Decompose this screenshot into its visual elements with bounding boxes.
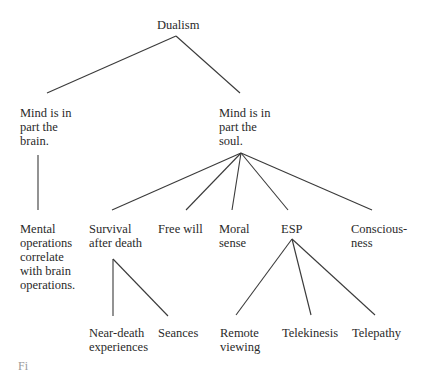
node-remote-viewing: Remote viewing: [220, 326, 260, 354]
node-mind-brain: Mind is in part the brain.: [20, 106, 71, 148]
edge-esp-to-telepathy: [292, 239, 375, 315]
node-dualism: Dualism: [157, 18, 199, 32]
edge-survival-to-seances: [113, 259, 168, 316]
node-telekinesis: Telekinesis: [282, 326, 338, 340]
edge-soul-to-consciousness: [241, 153, 372, 210]
dualism-tree-diagram: Dualism Mind is in part the brain. Mind …: [0, 0, 422, 372]
edge-soul-to-esp: [241, 153, 288, 210]
node-moral-sense: Moral sense: [219, 222, 250, 250]
connector-lines: [0, 0, 422, 372]
figure-caption-partial: Fi: [18, 359, 28, 372]
edge-esp-to-telekinesis: [292, 239, 311, 315]
edge-esp-to-remote_viewing: [236, 239, 292, 315]
edge-dualism-to-soul: [176, 36, 240, 93]
node-free-will: Free will: [158, 222, 203, 236]
edge-dualism-to-brain: [47, 36, 176, 93]
node-seances: Seances: [158, 326, 198, 340]
edge-soul-to-survival: [112, 153, 241, 210]
node-consciousness: Conscious- ness: [351, 222, 407, 250]
node-telepathy: Telepathy: [352, 326, 401, 340]
node-esp: ESP: [281, 222, 303, 236]
edge-soul-to-free_will: [186, 153, 241, 210]
node-mental-operations: Mental operations correlate with brain o…: [20, 222, 75, 292]
node-survival-after-death: Survival after death: [89, 222, 142, 250]
node-near-death-experiences: Near-death experiences: [89, 326, 148, 354]
node-mind-soul: Mind is in part the soul.: [219, 106, 270, 148]
